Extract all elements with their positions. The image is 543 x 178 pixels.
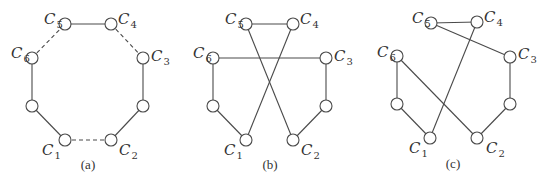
node-label-letter: C: [486, 139, 497, 157]
node-label-c1: C1: [224, 143, 243, 161]
node-label-letter: C: [119, 141, 130, 159]
node-c2: [287, 134, 299, 146]
node-r: [504, 98, 516, 110]
edges-c: [397, 22, 510, 138]
node-label-c6: C6: [193, 46, 212, 64]
edge-c4-c1: [430, 22, 477, 138]
node-label-letter: C: [412, 9, 423, 27]
edge-c6-c2: [397, 56, 477, 138]
node-r: [137, 100, 149, 112]
node-c2: [105, 134, 117, 146]
node-c4: [287, 18, 299, 30]
node-l: [207, 100, 219, 112]
node-label-subscript: 2: [131, 150, 137, 161]
node-l: [26, 100, 38, 112]
node-label-c6: C6: [377, 45, 396, 63]
node-label-c1: C1: [42, 143, 61, 161]
node-label-c2: C2: [119, 143, 138, 161]
node-label-c4: C4: [484, 10, 503, 28]
node-label-letter: C: [193, 44, 204, 62]
node-c2: [471, 132, 483, 144]
node-label-c5: C5: [44, 12, 63, 30]
edge-l-c1: [397, 104, 430, 138]
node-label-subscript: 4: [496, 17, 502, 28]
node-label-subscript: 2: [498, 148, 504, 159]
edges-b: [213, 24, 326, 140]
node-label-c2: C2: [486, 141, 505, 159]
node-r: [320, 100, 332, 112]
edges-a: [32, 24, 143, 140]
edge-l-c1: [213, 106, 246, 140]
node-label-letter: C: [151, 47, 162, 65]
panel-b: [207, 18, 332, 146]
edge-r-c2: [111, 106, 143, 140]
node-label-letter: C: [224, 141, 235, 159]
node-label-c5: C5: [412, 11, 431, 29]
node-label-letter: C: [42, 141, 53, 159]
node-label-subscript: 4: [312, 19, 318, 30]
panel-a: [26, 18, 149, 146]
node-label-letter: C: [300, 10, 311, 28]
node-c4: [105, 18, 117, 30]
node-label-subscript: 2: [313, 150, 319, 161]
node-label-c1: C1: [409, 141, 428, 159]
node-label-subscript: 5: [56, 19, 62, 30]
panel-caption-b: (b): [262, 158, 277, 171]
node-label-subscript: 3: [530, 54, 536, 65]
node-label-c4: C4: [118, 12, 137, 30]
node-label-subscript: 6: [205, 53, 211, 64]
node-label-subscript: 4: [130, 19, 136, 30]
node-label-letter: C: [225, 10, 236, 28]
node-label-letter: C: [118, 10, 129, 28]
node-label-letter: C: [409, 139, 420, 157]
panel-caption-c: (c): [446, 157, 460, 170]
graph-drawing: [0, 0, 543, 178]
node-label-subscript: 1: [54, 150, 60, 161]
edge-c5-c3: [431, 23, 510, 57]
node-label-letter: C: [377, 43, 388, 61]
panel-c: [391, 16, 516, 144]
node-label-subscript: 3: [346, 56, 352, 67]
node-c3: [137, 52, 149, 64]
node-label-subscript: 5: [424, 18, 430, 29]
edge-r-c2: [293, 106, 326, 140]
figure-canvas: C1C2C3C4C5C6(a)C1C2C3C4C5C6(b)C1C2C3C4C5…: [0, 0, 543, 178]
node-label-subscript: 1: [421, 148, 427, 159]
edge-r-c2: [477, 104, 510, 138]
node-label-letter: C: [11, 44, 22, 62]
node-label-subscript: 6: [389, 52, 395, 63]
node-c3: [320, 52, 332, 64]
node-label-subscript: 3: [163, 56, 169, 67]
edge-c1-l: [32, 106, 65, 140]
node-label-letter: C: [44, 10, 55, 28]
node-label-c5: C5: [225, 12, 244, 30]
node-label-c6: C6: [11, 46, 30, 64]
node-l: [391, 98, 403, 110]
node-label-c4: C4: [300, 12, 319, 30]
node-label-c2: C2: [301, 143, 320, 161]
node-label-letter: C: [301, 141, 312, 159]
panel-caption-a: (a): [81, 158, 95, 171]
node-label-letter: C: [518, 45, 529, 63]
node-label-letter: C: [334, 47, 345, 65]
node-label-letter: C: [484, 8, 495, 26]
node-label-subscript: 5: [237, 19, 243, 30]
node-c3: [504, 51, 516, 63]
nodes-a: [26, 18, 149, 146]
node-label-c3: C3: [334, 49, 353, 67]
node-label-subscript: 1: [236, 150, 242, 161]
node-label-c3: C3: [518, 47, 537, 65]
node-label-subscript: 6: [23, 53, 29, 64]
edge-c5-c4: [431, 22, 477, 23]
node-c4: [471, 16, 483, 28]
node-label-c3: C3: [151, 49, 170, 67]
